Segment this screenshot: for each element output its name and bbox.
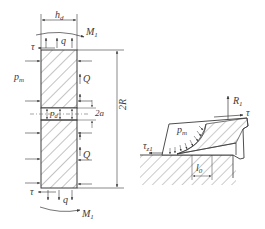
tau-label-top: τ — [31, 42, 35, 52]
r1-label: R1 — [233, 96, 243, 108]
m1-label-top: M1 — [86, 27, 98, 39]
q-label-bottom: q — [63, 195, 68, 205]
m1-label-bottom: M1 — [82, 209, 94, 221]
pd-label: pd — [50, 109, 58, 119]
q-arrows-bottom — [48, 190, 72, 200]
q-force-label-bottom: Q — [83, 150, 90, 160]
q-label-top: q — [61, 36, 66, 46]
pm-label-right: pm — [177, 125, 187, 137]
pm-label: pm — [14, 72, 24, 84]
lower-seal-block — [41, 120, 77, 188]
upper-seal-block — [41, 50, 77, 108]
moment-arc-bottom — [40, 207, 80, 211]
tau-arrow-right — [214, 115, 243, 117]
hd-label: hd — [55, 10, 64, 22]
tau-z1-label: τz1 — [143, 141, 153, 153]
pm-arrows-left — [25, 61, 40, 183]
q-force-label-top: Q — [83, 74, 90, 84]
2a-label: 2a — [95, 109, 104, 118]
l0-label: l0 — [196, 163, 202, 175]
right-contact-detail — [140, 96, 248, 185]
diagram-canvas — [0, 0, 265, 229]
q-arrows-top — [46, 38, 72, 48]
left-seal-section — [25, 14, 124, 211]
2R-label: 2R — [118, 99, 128, 110]
tau-label-bottom: τ — [30, 187, 34, 197]
ground-body — [140, 155, 236, 185]
tau-label-right: τ — [246, 108, 250, 118]
